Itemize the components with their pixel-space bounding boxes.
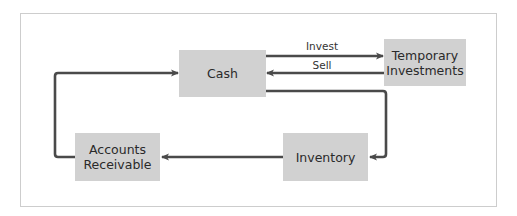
sell-label: Sell [313,59,332,71]
node-temporary-investments-line2: Investments [386,63,463,78]
invest-label: Invest [306,40,338,52]
node-temporary-investments-line1: Temporary [392,48,458,63]
node-cash-label: Cash [207,66,238,81]
node-temporary-investments: Temporary Investments [384,39,466,86]
node-accounts-receivable-line2: Receivable [83,157,151,172]
node-accounts-receivable-line1: Accounts [89,142,146,157]
node-inventory-label: Inventory [296,150,356,165]
node-inventory: Inventory [283,133,368,181]
node-accounts-receivable: Accounts Receivable [75,133,160,181]
node-cash: Cash [179,50,266,97]
arrow-layer [0,0,517,216]
